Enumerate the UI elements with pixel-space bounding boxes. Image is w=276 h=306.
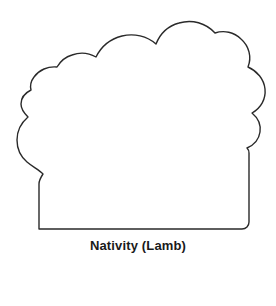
lamb-outline-illustration (0, 0, 276, 240)
figure-container: Nativity (Lamb) (0, 0, 276, 306)
figure-caption: Nativity (Lamb) (90, 238, 186, 253)
caption-block: Nativity (Lamb) (0, 236, 276, 254)
